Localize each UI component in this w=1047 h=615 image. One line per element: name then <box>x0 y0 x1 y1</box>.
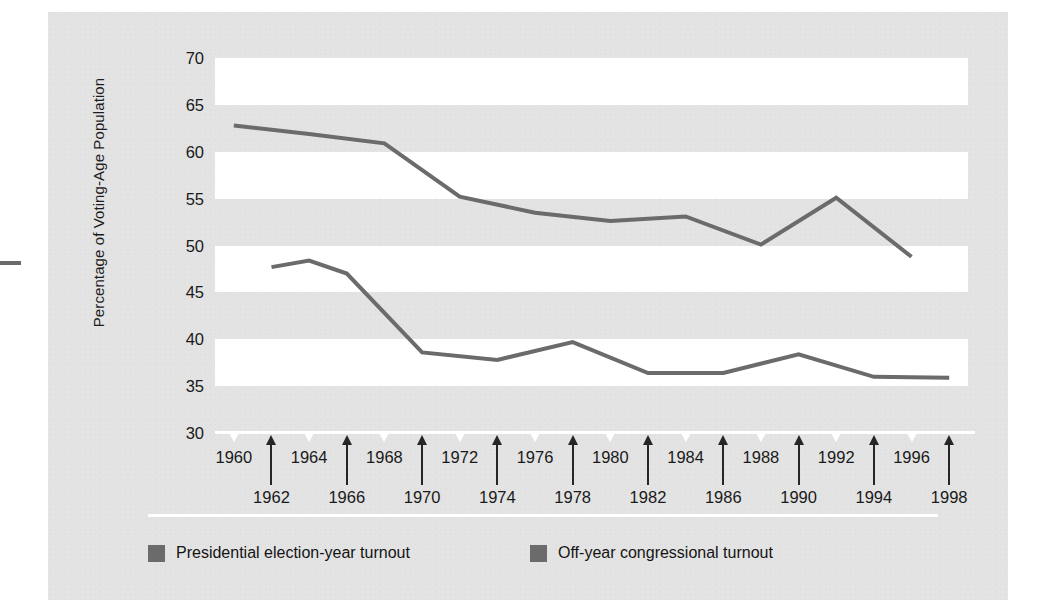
x-axis-callout-arrowhead <box>794 435 804 445</box>
x-axis-tick-group: 1960196419681972197619801984198819921996… <box>215 433 968 513</box>
x-axis-label-bottom: 1970 <box>404 488 441 507</box>
x-axis-callout-arrow <box>421 443 423 485</box>
x-axis-label-top: 1976 <box>517 448 554 467</box>
x-axis-callout-arrow <box>722 443 724 485</box>
x-axis-tick-mark <box>229 433 239 442</box>
x-axis-callout-arrowhead <box>266 435 276 445</box>
x-axis-callout-arrowhead <box>643 435 653 445</box>
x-axis-tick-mark <box>831 433 841 442</box>
x-axis-callout-arrow <box>346 443 348 485</box>
line-chart-figure: Percentage of Voting-Age Population 7065… <box>48 12 1008 600</box>
x-axis-callout-arrowhead <box>492 435 502 445</box>
y-axis-title: Percentage of Voting-Age Population <box>90 48 107 358</box>
legend-label: Presidential election-year turnout <box>176 544 410 562</box>
x-axis-callout-arrowhead <box>718 435 728 445</box>
x-axis-tick-mark <box>379 433 389 442</box>
x-axis-callout-arrowhead <box>417 435 427 445</box>
x-axis-callout-arrow <box>647 443 649 485</box>
y-axis-tick-label: 60 <box>164 142 204 161</box>
y-axis-tick-labels: 706560555045403530 <box>156 58 204 433</box>
x-axis-callout-arrow <box>496 443 498 485</box>
x-axis-callout-arrowhead <box>342 435 352 445</box>
x-axis-callout-arrowhead <box>944 435 954 445</box>
x-axis-label-bottom: 1966 <box>328 488 365 507</box>
x-axis-tick-mark <box>455 433 465 442</box>
x-axis-tick-mark <box>681 433 691 442</box>
x-axis-label-bottom: 1998 <box>931 488 968 507</box>
x-axis-label-top: 1996 <box>893 448 930 467</box>
y-axis-tick-label: 35 <box>164 377 204 396</box>
x-axis-tick-mark <box>530 433 540 442</box>
x-axis-tick-mark <box>304 433 314 442</box>
y-axis-tick-label: 55 <box>164 189 204 208</box>
x-axis-label-top: 1972 <box>441 448 478 467</box>
x-axis-label-top: 1984 <box>667 448 704 467</box>
y-axis-tick-label: 70 <box>164 49 204 68</box>
x-axis-label-top: 1980 <box>592 448 629 467</box>
x-axis-label-bottom: 1978 <box>554 488 591 507</box>
x-axis-label-top: 1964 <box>291 448 328 467</box>
legend-item: Off-year congressional turnout <box>530 544 773 562</box>
x-axis-label-bottom: 1990 <box>780 488 817 507</box>
data-lines <box>215 58 968 433</box>
y-axis-tick-label: 45 <box>164 283 204 302</box>
x-axis-label-bottom: 1986 <box>705 488 742 507</box>
legend-swatch <box>530 545 547 562</box>
x-axis-label-top: 1968 <box>366 448 403 467</box>
x-axis-label-bottom: 1994 <box>856 488 893 507</box>
x-axis-callout-arrow <box>798 443 800 485</box>
y-axis-tick-label: 65 <box>164 95 204 114</box>
x-axis-callout-arrow <box>948 443 950 485</box>
x-axis-tick-mark <box>907 433 917 442</box>
x-axis-label-top: 1960 <box>215 448 252 467</box>
legend-divider <box>148 514 938 517</box>
legend-item: Presidential election-year turnout <box>148 544 410 562</box>
x-axis-callout-arrowhead <box>869 435 879 445</box>
x-axis-callout-arrowhead <box>568 435 578 445</box>
x-axis-label-bottom: 1982 <box>630 488 667 507</box>
x-axis-label-bottom: 1962 <box>253 488 290 507</box>
series-line-offyear <box>272 261 950 378</box>
x-axis-callout-arrow <box>270 443 272 485</box>
x-axis-label-bottom: 1974 <box>479 488 516 507</box>
x-axis-callout-arrow <box>572 443 574 485</box>
page-margin-mark <box>0 261 21 265</box>
series-line-presidential <box>234 126 912 257</box>
x-axis-tick-mark <box>605 433 615 442</box>
chart-legend: Presidential election-year turnoutOff-ye… <box>148 544 968 578</box>
legend-swatch <box>148 545 165 562</box>
x-axis-label-top: 1988 <box>743 448 780 467</box>
y-axis-tick-label: 50 <box>164 236 204 255</box>
y-axis-tick-label: 30 <box>164 424 204 443</box>
y-axis-tick-label: 40 <box>164 330 204 349</box>
x-axis-callout-arrow <box>873 443 875 485</box>
legend-label: Off-year congressional turnout <box>558 544 773 562</box>
x-axis-label-top: 1992 <box>818 448 855 467</box>
x-axis-tick-mark <box>756 433 766 442</box>
